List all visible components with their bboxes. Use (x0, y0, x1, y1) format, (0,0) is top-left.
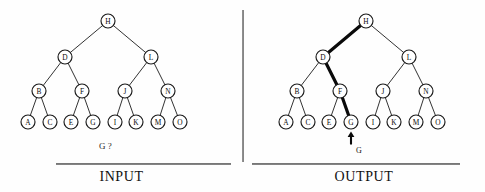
node-label-m: M (155, 118, 162, 127)
node-label-h: H (363, 17, 369, 26)
tree-edge-l-n (154, 63, 165, 85)
node-label-k: K (133, 118, 139, 127)
arrow-head (348, 132, 355, 138)
tree-edge-b-a (30, 97, 37, 115)
tree-node-b[interactable]: B (290, 84, 304, 98)
tree-node-i[interactable]: I (366, 115, 380, 129)
tree-node-l[interactable]: L (144, 50, 158, 64)
tree-node-o[interactable]: O (431, 115, 445, 129)
tree-edge-n-m (418, 97, 424, 115)
node-label-f: F (338, 87, 342, 96)
node-label-n: N (423, 87, 429, 96)
tree-edge-h-l (371, 25, 404, 52)
node-label-l: L (407, 53, 412, 62)
node-label-l: L (149, 53, 154, 62)
node-label-a: A (283, 118, 289, 127)
tree-node-m[interactable]: M (151, 115, 165, 129)
figure-root: HDLBFJNACEGIKMO G ? HDLBFJNACEGIKMO G IN… (0, 0, 485, 192)
query-text: G ? (99, 141, 112, 151)
tree-node-o[interactable]: O (173, 115, 187, 129)
tree-node-i[interactable]: I (108, 115, 122, 129)
tree-edge-f-e (331, 97, 338, 115)
tree-node-j[interactable]: J (118, 84, 132, 98)
node-label-d: D (320, 53, 326, 62)
input-caption: INPUT (0, 169, 243, 185)
tree-edge-j-k (385, 97, 392, 115)
node-label-g: G (90, 118, 96, 127)
node-label-d: D (62, 53, 68, 62)
tree-edge-highlighted-f-g (342, 97, 349, 115)
tree-node-e[interactable]: E (64, 115, 78, 129)
tree-node-a[interactable]: A (21, 115, 35, 129)
tree-node-c[interactable]: C (43, 115, 57, 129)
node-label-g: G (348, 118, 354, 127)
node-label-n: N (165, 87, 171, 96)
tree-edge-d-b (43, 62, 61, 85)
tree-edge-l-j (387, 62, 405, 85)
tree-edge-j-i (375, 97, 381, 115)
node-label-h: H (105, 17, 111, 26)
tree-edge-l-j (129, 62, 147, 85)
tree-node-b[interactable]: B (32, 84, 46, 98)
tree-node-f[interactable]: F (333, 84, 347, 98)
tree-node-f[interactable]: F (75, 84, 89, 98)
node-label-b: B (37, 87, 42, 96)
node-label-j: J (124, 87, 127, 96)
input-caption-rule (56, 163, 231, 165)
tree-edge-highlighted-d-f (326, 63, 337, 85)
node-label-k: K (391, 118, 397, 127)
node-label-c: C (48, 118, 53, 127)
tree-node-k[interactable]: K (387, 115, 401, 129)
node-label-j: J (382, 87, 385, 96)
tree-edge-h-d (70, 25, 103, 52)
input-tree-diagram: HDLBFJNACEGIKMO (0, 0, 243, 163)
tree-edge-n-m (160, 97, 166, 115)
target-pointer-arrow-icon (348, 132, 355, 145)
node-label-f: F (80, 87, 84, 96)
tree-edge-b-a (288, 97, 295, 115)
tree-node-n[interactable]: N (161, 84, 175, 98)
tree-edge-l-n (412, 63, 423, 85)
tree-node-e[interactable]: E (322, 115, 336, 129)
tree-node-l[interactable]: L (402, 50, 416, 64)
tree-node-h[interactable]: H (359, 14, 373, 28)
tree-node-d[interactable]: D (316, 50, 330, 64)
tree-node-c[interactable]: C (301, 115, 315, 129)
output-caption: OUTPUT (243, 169, 485, 185)
found-node-label: G (356, 146, 362, 155)
node-label-c: C (306, 118, 311, 127)
tree-node-g[interactable]: G (344, 115, 358, 129)
tree-node-d[interactable]: D (58, 50, 72, 64)
tree-node-m[interactable]: M (409, 115, 423, 129)
tree-edge-f-e (73, 97, 80, 115)
tree-edge-n-o (428, 97, 435, 116)
tree-edge-j-k (127, 97, 134, 115)
node-label-e: E (327, 118, 332, 127)
tree-node-a[interactable]: A (279, 115, 293, 129)
tree-node-j[interactable]: J (376, 84, 390, 98)
tree-node-k[interactable]: K (129, 115, 143, 129)
panel-divider-vertical (242, 10, 244, 162)
tree-edge-h-l (113, 25, 146, 52)
tree-edge-n-o (170, 97, 177, 116)
node-label-o: O (177, 118, 183, 127)
tree-edge-j-i (117, 97, 123, 115)
node-label-o: O (435, 118, 441, 127)
tree-edge-b-c (299, 97, 306, 115)
tree-node-n[interactable]: N (419, 84, 433, 98)
node-label-m: M (413, 118, 420, 127)
node-label-e: E (69, 118, 74, 127)
output-tree-diagram: HDLBFJNACEGIKMO (243, 0, 485, 163)
node-label-b: B (295, 87, 300, 96)
tree-edge-d-b (301, 62, 319, 85)
output-caption-rule (252, 163, 460, 165)
tree-node-h[interactable]: H (101, 14, 115, 28)
tree-edge-f-g (84, 97, 91, 115)
tree-edge-highlighted-h-d (328, 25, 361, 52)
tree-edge-b-c (41, 97, 48, 115)
tree-edge-d-f (68, 63, 79, 85)
tree-node-g[interactable]: G (86, 115, 100, 129)
node-label-a: A (25, 118, 31, 127)
